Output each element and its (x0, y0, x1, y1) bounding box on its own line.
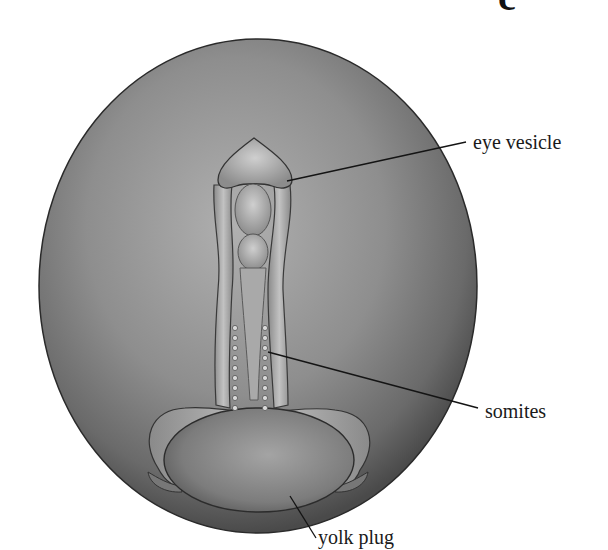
somite-dot (232, 335, 237, 340)
yolk-plug (164, 408, 354, 512)
somite-dot (232, 375, 237, 380)
somite-dot (232, 365, 237, 370)
somite-dot (262, 335, 267, 340)
somite-dot (262, 385, 267, 390)
somite-dot (262, 395, 267, 400)
somite-dot (262, 325, 267, 330)
somite-dot (262, 405, 267, 410)
somite-dot (232, 345, 237, 350)
somite-dot (262, 365, 267, 370)
somite-dot (232, 355, 237, 360)
somite-dot (232, 385, 237, 390)
figure-canvas: eye vesicle somites yolk plug c (0, 0, 608, 550)
somite-dot (262, 355, 267, 360)
somite-dot (232, 395, 237, 400)
somite-dot (262, 345, 267, 350)
embryo-diagram: eye vesicle somites yolk plug c (0, 0, 608, 550)
somite-dot (232, 405, 237, 410)
somite-dot (262, 375, 267, 380)
yolk-plug-label: yolk plug (318, 526, 394, 549)
panel-label: c (498, 0, 516, 19)
somites-label: somites (485, 400, 546, 422)
eye-vesicle-label: eye vesicle (473, 131, 561, 154)
somite-dot (232, 325, 237, 330)
